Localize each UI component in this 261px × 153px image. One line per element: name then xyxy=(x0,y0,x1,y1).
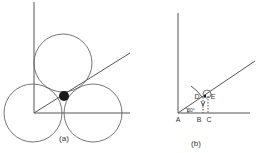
caption-a: (a) xyxy=(59,134,69,143)
figure-canvas: (a) A B C D E 30° (b) xyxy=(0,0,261,153)
label-d: D xyxy=(194,93,199,100)
label-e: E xyxy=(211,93,216,100)
diagonal-line-a xyxy=(34,53,130,113)
label-c: C xyxy=(206,116,211,123)
intersection-point xyxy=(204,95,206,97)
angle-label: 30° xyxy=(187,107,195,113)
panel-b: A B C D E 30° (b) xyxy=(176,13,255,148)
diagonal-line-b xyxy=(178,61,255,113)
center-filled-circle xyxy=(59,91,69,101)
label-b: B xyxy=(197,116,202,123)
label-a: A xyxy=(176,116,181,123)
caption-b: (b) xyxy=(191,139,201,148)
top-circle xyxy=(34,34,92,92)
panel-a: (a) xyxy=(4,2,130,143)
